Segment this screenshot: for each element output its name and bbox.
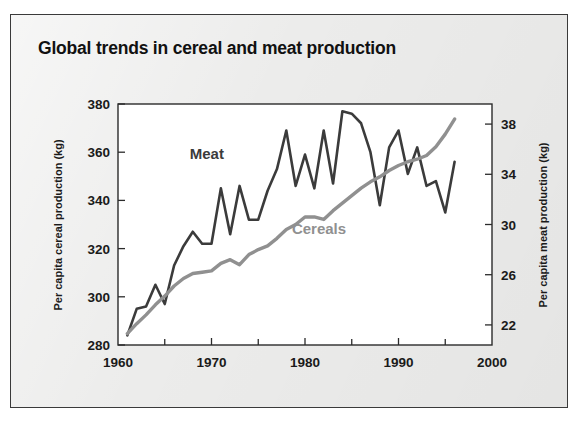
right-tick-label: 22 [501, 318, 516, 333]
left-axis-tick-labels: 280300320340360380 [87, 97, 110, 353]
chart-canvas: 280300320340360380 2226303438 1960197019… [0, 0, 582, 421]
right-tick-label: 30 [501, 218, 516, 233]
right-axis-title: Per capita meat production (kg) [537, 142, 549, 307]
x-tick-label: 1980 [290, 355, 320, 370]
series-label-meat: Meat [190, 145, 224, 162]
figure-root: Global trends in cereal and meat product… [0, 0, 582, 421]
left-tick-label: 360 [87, 145, 110, 160]
right-tick-label: 38 [501, 117, 517, 132]
left-tick-label: 380 [87, 97, 110, 112]
right-tick-label: 34 [501, 167, 517, 182]
left-tick-label: 300 [87, 290, 110, 305]
x-tick-label: 1990 [383, 355, 413, 370]
x-tick-label: 1960 [103, 355, 133, 370]
left-axis-title: Per capita cereal production (kg) [52, 139, 64, 310]
left-tick-label: 340 [87, 193, 110, 208]
left-tick-label: 320 [87, 242, 110, 257]
series-label-cereals: Cereals [292, 220, 346, 237]
right-tick-label: 26 [501, 268, 517, 283]
x-tick-label: 1970 [196, 355, 226, 370]
left-tick-label: 280 [87, 338, 110, 353]
x-axis-tick-labels: 19601970198019902000 [103, 355, 507, 370]
x-tick-label: 2000 [477, 355, 507, 370]
right-axis-tick-labels: 2226303438 [501, 117, 517, 333]
